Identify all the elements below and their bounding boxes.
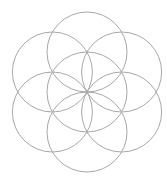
seed-of-life-diagram [0,0,167,177]
circle-group [12,12,161,172]
